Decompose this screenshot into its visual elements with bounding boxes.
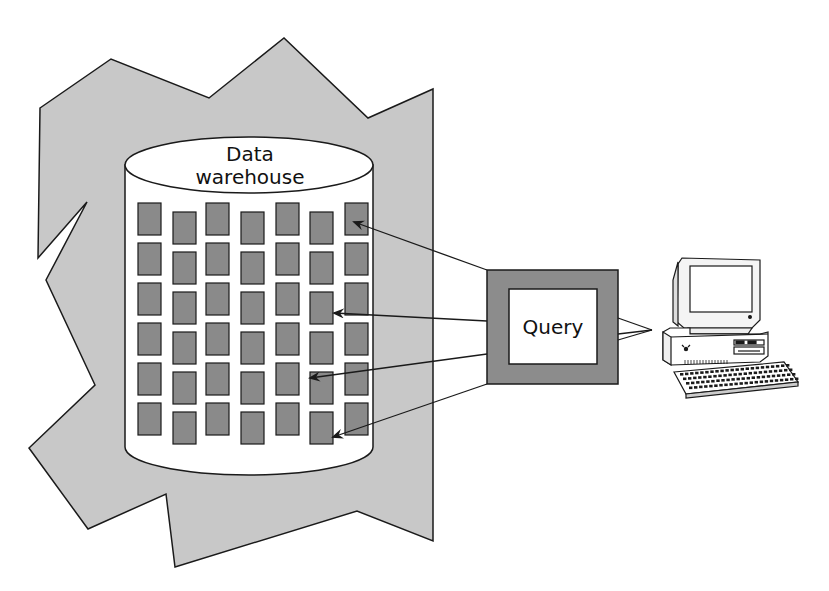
data-cell-r5-c3	[206, 363, 229, 395]
keyboard-key	[782, 374, 785, 377]
keyboard-key	[690, 372, 693, 375]
keyboard-key	[699, 386, 702, 389]
keyboard-key	[721, 379, 724, 382]
keyboard-key	[781, 364, 784, 367]
keyboard-key	[739, 373, 742, 376]
keyboard-key	[719, 384, 722, 387]
data-cell-r5-c2	[173, 372, 196, 404]
data-cell-r5-c1	[138, 363, 161, 395]
keyboard-key	[708, 375, 711, 378]
data-cell-r6-c6	[310, 412, 333, 444]
keyboard-key	[757, 376, 760, 379]
data-cell-r1-c1	[138, 203, 161, 235]
keyboard-key	[686, 382, 689, 385]
keyboard-key	[715, 370, 718, 373]
keyboard-key	[775, 379, 778, 382]
data-cell-r2-c5	[276, 243, 299, 275]
keyboard-key	[729, 383, 732, 386]
keyboard-key	[704, 385, 707, 388]
warehouse-label-line2: warehouse	[195, 165, 304, 189]
keyboard-key	[683, 378, 686, 381]
keyboard-key	[746, 367, 749, 370]
keyboard-key	[784, 369, 787, 372]
keyboard-key	[772, 375, 775, 378]
keyboard-key	[750, 381, 753, 384]
keyboard-key	[769, 370, 772, 373]
keyboard-key	[771, 365, 774, 368]
keyboard-key	[724, 384, 727, 387]
keyboard-key	[754, 372, 757, 375]
keyboard-key	[694, 386, 697, 389]
keyboard-key	[728, 374, 731, 377]
keyboard-key	[747, 377, 750, 380]
data-cell-r3-c6	[310, 292, 333, 324]
keyboard-key	[726, 379, 729, 382]
keyboard-key	[776, 365, 779, 368]
data-cell-r4-c4	[241, 332, 264, 364]
keyboard-key	[744, 372, 747, 375]
keyboard-key	[710, 370, 713, 373]
keyboard-key	[731, 378, 734, 381]
keyboard-key	[706, 380, 709, 383]
keyboard-key	[767, 375, 770, 378]
keyboard-key	[742, 377, 745, 380]
keyboard-key	[737, 378, 740, 381]
keyboard-key	[761, 366, 764, 369]
keyboard-key	[785, 378, 788, 381]
keyboard-key	[786, 364, 789, 367]
data-cell-r2-c4	[241, 252, 264, 284]
data-cell-r6-c2	[173, 412, 196, 444]
data-cell-r4-c2	[173, 332, 196, 364]
data-cell-r3-c2	[173, 292, 196, 324]
keyboard-key	[691, 382, 694, 385]
data-cell-r1-c2	[173, 212, 196, 244]
keyboard-key	[764, 371, 767, 374]
keyboard-key	[795, 378, 798, 381]
data-cell-r4-c7	[345, 323, 368, 355]
keyboard-key	[689, 387, 692, 390]
keyboard-key	[790, 378, 793, 381]
keyboard-key	[700, 371, 703, 374]
keyboard-key	[741, 368, 744, 371]
keyboard-key	[713, 375, 716, 378]
keyboard-key	[752, 376, 755, 379]
data-cell-r6-c4	[241, 412, 264, 444]
keyboard-key	[792, 373, 795, 376]
keyboard-key	[714, 384, 717, 387]
keyboard-key	[779, 369, 782, 372]
keyboard-key	[696, 381, 699, 384]
data-cell-r5-c5	[276, 363, 299, 395]
data-cell-r2-c3	[206, 243, 229, 275]
data-cell-r5-c7	[345, 363, 368, 395]
keyboard-key	[789, 369, 792, 372]
keyboard-key	[701, 381, 704, 384]
data-cell-r3-c4	[241, 292, 264, 324]
keyboard-key	[755, 381, 758, 384]
data-cell-r6-c3	[206, 403, 229, 435]
warehouse-label-line1: Data	[226, 142, 274, 166]
keyboard-key	[734, 373, 737, 376]
keyboard-key	[705, 371, 708, 374]
data-cell-r1-c5	[276, 203, 299, 235]
data-cell-r1-c6	[310, 212, 333, 244]
query-client-connector	[618, 318, 652, 340]
data-cell-r3-c5	[276, 283, 299, 315]
data-cell-r6-c7	[345, 403, 368, 435]
keyboard-key	[756, 367, 759, 370]
query-label: Query	[523, 315, 584, 339]
data-cell-r4-c5	[276, 323, 299, 355]
data-cell-r2-c7	[345, 243, 368, 275]
query-box: Query	[487, 270, 618, 384]
data-cell-r4-c6	[310, 332, 333, 364]
keyboard-key	[709, 385, 712, 388]
desktop-computer-icon	[663, 258, 798, 398]
keyboard-key	[780, 379, 783, 382]
data-cell-r6-c5	[276, 403, 299, 435]
data-cell-r4-c3	[206, 323, 229, 355]
keyboard-key	[759, 371, 762, 374]
keyboard-key	[774, 370, 777, 373]
keyboard-key	[703, 376, 706, 379]
data-cell-r3-c3	[206, 283, 229, 315]
data-cell-r2-c2	[173, 252, 196, 284]
keyboard-key	[723, 374, 726, 377]
